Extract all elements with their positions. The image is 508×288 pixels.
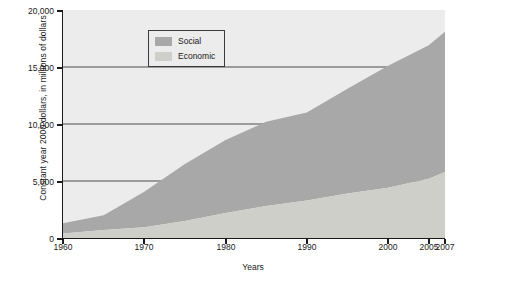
chart-legend: Social Economic xyxy=(148,30,225,67)
legend-item-social: Social xyxy=(155,36,215,46)
x-tick-label-2007: 2007 xyxy=(425,242,465,252)
y-axis-title: Constant year 2000 dollars, in millions … xyxy=(38,0,48,223)
x-tick-label-1970: 1970 xyxy=(124,242,164,252)
legend-item-economic: Economic xyxy=(155,51,215,61)
x-tick-label-1980: 1980 xyxy=(206,242,246,252)
x-tick-label-2000: 2000 xyxy=(368,242,408,252)
x-tick-label-1960: 1960 xyxy=(43,242,83,252)
stacked-area-plot xyxy=(63,10,445,238)
y-tick-label-20000: 20,000 xyxy=(2,6,54,16)
legend-swatch-economic xyxy=(155,52,172,61)
y-tick-label-15000: 15,000 xyxy=(2,63,54,73)
legend-label-social: Social xyxy=(178,36,201,46)
x-axis-title: Years xyxy=(62,262,444,272)
legend-label-economic: Economic xyxy=(178,51,215,61)
legend-swatch-social xyxy=(155,37,172,46)
x-tick-label-1990: 1990 xyxy=(287,242,327,252)
plot-area: Social Economic xyxy=(62,10,445,239)
chart-container: Constant year 2000 dollars, in millions … xyxy=(0,0,508,288)
y-tick-label-5000: 5,000 xyxy=(2,177,54,187)
y-tick-label-10000: 10,000 xyxy=(2,120,54,130)
